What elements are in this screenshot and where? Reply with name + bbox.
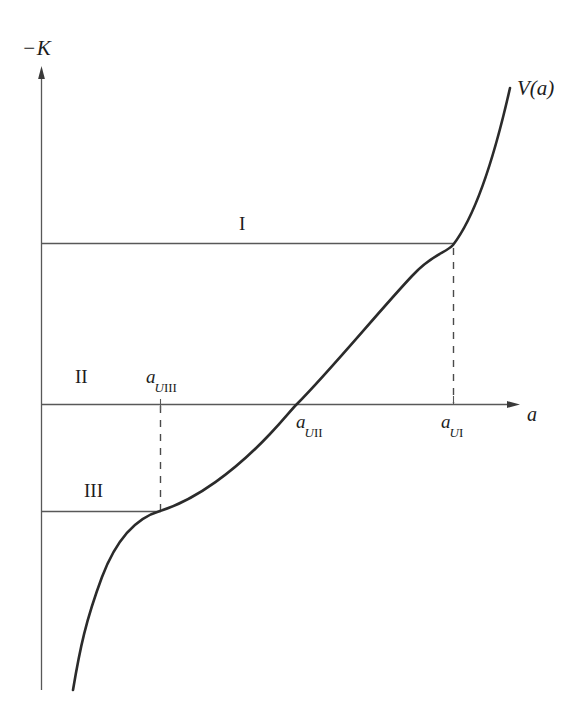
region-label-i: I [239,214,245,233]
potential-curve [73,88,510,690]
tick-sub-italic-a-uiii: U [155,380,164,395]
x-axis-group [41,401,520,408]
tick-label-a-uiii: aUIII [146,366,178,392]
tick-label-a-ui: aUI [441,411,464,437]
y-axis-label: −K [22,38,51,59]
y-axis-arrowhead [38,66,45,79]
region-label-ii: II [75,367,88,386]
potential-diagram-svg [0,0,575,718]
tick-subscript-a-uiii: UIII [155,380,177,395]
tick-sub-italic-a-uii: U [305,425,314,440]
tick-label-a-uii: aUII [296,411,324,437]
y-axis-group [38,66,45,690]
curve-label: V(a) [517,78,554,99]
x-axis-label: a [527,404,537,424]
tick-sub-roman-a-uiii: III [164,380,177,395]
figure-root: −K a V(a) I II III aUIII aUII aUI [0,0,575,718]
tick-subscript-a-ui: UI [450,425,464,440]
tick-sub-roman-a-ui: I [459,425,463,440]
tick-sub-italic-a-ui: U [450,425,459,440]
tick-sub-roman-a-uii: II [314,425,323,440]
x-axis-arrowhead [507,401,520,408]
region-label-iii: III [84,481,103,500]
tick-subscript-a-uii: UII [305,425,323,440]
